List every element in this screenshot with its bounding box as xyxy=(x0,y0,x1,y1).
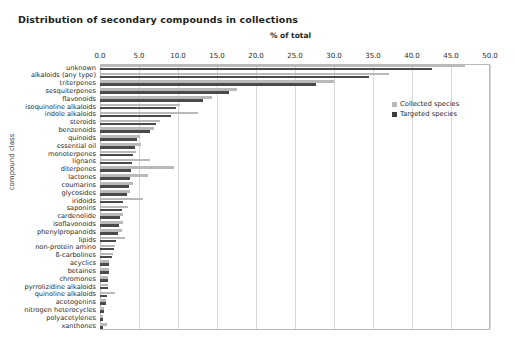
bar-targeted-species xyxy=(100,287,108,290)
bar-targeted-species xyxy=(100,123,156,126)
legend-label: Collected species xyxy=(400,99,459,109)
bar-targeted-species xyxy=(100,83,316,86)
bar-targeted-species xyxy=(100,138,137,141)
chart-title: Distribution of secondary compounds in c… xyxy=(18,14,298,25)
x-tick-label: 50.0 xyxy=(482,52,498,60)
bar-targeted-species xyxy=(100,302,106,305)
x-axis-tick-labels: 0.05.010.015.020.025.030.035.040.045.050… xyxy=(100,52,490,64)
x-tick-label: 15.0 xyxy=(209,52,225,60)
bar-targeted-species xyxy=(100,248,114,251)
bar-row: xanthones xyxy=(0,322,515,330)
y-tick-label: xanthones xyxy=(0,323,96,330)
bar-targeted-species xyxy=(100,146,135,149)
y-tick-label: quinoids xyxy=(0,135,96,142)
legend-item: Collected species xyxy=(392,99,459,109)
y-tick-label: essential oil xyxy=(0,143,96,150)
y-tick-label: glycosides xyxy=(0,190,96,197)
bar-targeted-species xyxy=(100,99,203,102)
bar-targeted-species xyxy=(100,279,108,282)
x-tick-label: 40.0 xyxy=(404,52,420,60)
bar-targeted-species xyxy=(100,177,130,180)
bar-targeted-species xyxy=(100,115,171,118)
bar-row: coumarins xyxy=(0,181,515,189)
bar-targeted-species xyxy=(100,295,107,298)
bar-row: phenylpropanoids xyxy=(0,228,515,236)
y-tick-label: isoflavonoids xyxy=(0,221,96,228)
y-tick-label: nitrogen heterocycles xyxy=(0,307,96,314)
legend-label: Targeted species xyxy=(400,109,457,119)
x-tick-label: 30.0 xyxy=(326,52,342,60)
y-tick-label: phenylpropanoids xyxy=(0,229,96,236)
y-tick-label: sesquiterpenes xyxy=(0,88,96,95)
chart-canvas: Distribution of secondary compounds in c… xyxy=(0,0,515,343)
bar-targeted-species xyxy=(100,193,127,196)
bar-targeted-species xyxy=(100,318,103,321)
x-tick-label: 20.0 xyxy=(248,52,264,60)
bar-targeted-species xyxy=(100,256,112,259)
bar-targeted-species xyxy=(100,271,109,274)
y-tick-label: betaines xyxy=(0,268,96,275)
x-tick-label: 10.0 xyxy=(170,52,186,60)
y-tick-label: polyacetylenes xyxy=(0,315,96,322)
bar-targeted-species xyxy=(100,216,120,219)
x-tick-label: 35.0 xyxy=(365,52,381,60)
x-tick-label: 0.0 xyxy=(94,52,105,60)
bar-targeted-species xyxy=(100,310,104,313)
bar-row: essential oil xyxy=(0,142,515,150)
y-tick-label: chromones xyxy=(0,276,96,283)
y-tick-label: flavonoids xyxy=(0,96,96,103)
chart-legend: Collected speciesTargeted species xyxy=(392,99,459,119)
legend-item: Targeted species xyxy=(392,109,459,119)
bar-targeted-species xyxy=(100,185,129,188)
bar-targeted-species xyxy=(100,107,176,110)
bar-targeted-species xyxy=(100,91,229,94)
y-tick-label: coumarins xyxy=(0,182,96,189)
bar-targeted-species xyxy=(100,169,131,172)
bar-targeted-species xyxy=(100,240,116,243)
bar-row: polyacetylenes xyxy=(0,314,515,322)
bar-targeted-species xyxy=(100,76,369,79)
bar-targeted-species xyxy=(100,130,150,133)
bar-targeted-species xyxy=(100,162,132,165)
bar-targeted-species xyxy=(100,201,123,204)
bar-targeted-species xyxy=(100,154,133,157)
bar-row: glycosides xyxy=(0,189,515,197)
x-tick-label: 5.0 xyxy=(133,52,144,60)
x-tick-label: 25.0 xyxy=(287,52,303,60)
bar-row: chromones xyxy=(0,275,515,283)
bar-targeted-species xyxy=(100,68,432,71)
y-tick-label: lactones xyxy=(0,174,96,181)
bar-targeted-species xyxy=(100,263,109,266)
legend-swatch-collected-icon xyxy=(392,102,397,107)
x-tick-label: 45.0 xyxy=(443,52,459,60)
bar-targeted-species xyxy=(100,326,103,329)
x-axis-caption: % of total xyxy=(0,31,515,40)
bar-targeted-species xyxy=(100,232,118,235)
bar-targeted-species xyxy=(100,209,122,212)
bar-targeted-species xyxy=(100,224,119,227)
legend-swatch-targeted-icon xyxy=(392,112,397,117)
